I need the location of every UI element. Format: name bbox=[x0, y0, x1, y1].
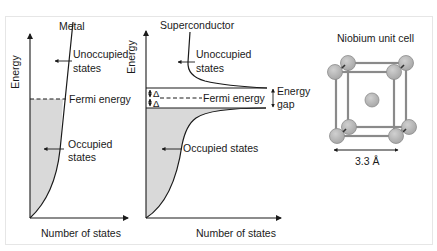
superconductor-fermi-label: Fermi energy bbox=[203, 92, 266, 104]
atom-front-top-left bbox=[328, 65, 343, 80]
superconductor-panel: Δ Δ Energy Superconductor Unoccupied sta… bbox=[125, 19, 311, 239]
superconductor-upper-dos-curve bbox=[188, 32, 267, 88]
metal-unoccupied-label-1: Unoccupied bbox=[73, 48, 129, 60]
atom-front-bottom-right bbox=[389, 129, 404, 144]
superconductor-title: Superconductor bbox=[160, 19, 235, 31]
metal-occupied-label-1: Occupied bbox=[68, 138, 113, 150]
superconductor-unoccupied-label-2: states bbox=[196, 62, 224, 74]
superconductor-y-axis-label: Energy bbox=[125, 40, 137, 74]
atom-front-top-right bbox=[387, 65, 402, 80]
lattice-constant-label: 3.3 Å bbox=[355, 155, 380, 167]
superconductor-occupied-region bbox=[146, 108, 266, 218]
density-of-states-diagram: Energy Metal Unoccupied states Fermi ene… bbox=[0, 0, 437, 251]
metal-occupied-region bbox=[30, 99, 63, 218]
energy-gap-label-1: Energy bbox=[277, 85, 311, 97]
niobium-unit-cell: Niobium unit cell 3.3 bbox=[328, 32, 417, 167]
atom-front-bottom-left bbox=[330, 129, 345, 144]
metal-unoccupied-label-2: states bbox=[73, 62, 101, 74]
energy-gap-label-2: gap bbox=[277, 98, 295, 110]
unit-cell-title: Niobium unit cell bbox=[337, 32, 414, 44]
metal-panel: Energy Metal Unoccupied states Fermi ene… bbox=[9, 20, 132, 239]
metal-title: Metal bbox=[59, 20, 85, 32]
metal-fermi-label: Fermi energy bbox=[69, 93, 132, 105]
superconductor-x-axis-label: Number of states bbox=[196, 227, 276, 239]
metal-y-axis-label: Energy bbox=[9, 55, 21, 89]
delta-bottom-symbol: Δ bbox=[153, 98, 160, 109]
metal-x-axis-label: Number of states bbox=[41, 227, 121, 239]
superconductor-occupied-label: Occupied states bbox=[183, 142, 258, 154]
atom-body-center bbox=[365, 93, 379, 107]
metal-occupied-label-2: states bbox=[68, 151, 96, 163]
superconductor-unoccupied-label-1: Unoccupied bbox=[196, 48, 252, 60]
